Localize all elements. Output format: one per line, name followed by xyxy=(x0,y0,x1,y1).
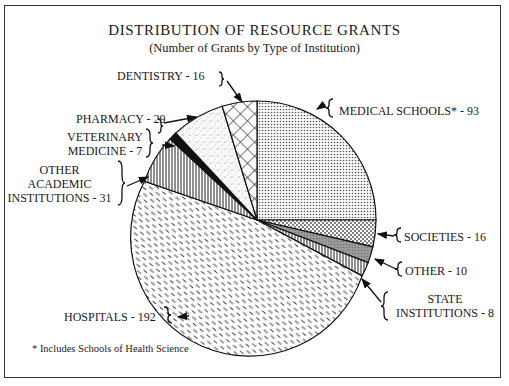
footnote: * Includes Schools of Health Science xyxy=(32,343,189,354)
label-other-academic-line3: INSTITUTIONS - 31 xyxy=(3,191,116,205)
label-other-academic-line2: ACADEMIC xyxy=(3,177,116,191)
label-other: OTHER - 10 xyxy=(405,264,467,278)
label-veterinary-medicine: VETERINARY MEDICINE - 7 xyxy=(64,130,146,158)
label-state-line1: STATE xyxy=(390,292,500,306)
label-vet-line1: VETERINARY xyxy=(64,130,146,144)
label-other-academic-line1: OTHER xyxy=(3,163,116,177)
label-state-line2: INSTITUTIONS - 8 xyxy=(390,306,500,320)
label-other-academic: OTHER ACADEMIC INSTITUTIONS - 31 xyxy=(3,163,116,205)
label-vet-line2: MEDICINE - 7 xyxy=(64,144,146,158)
label-dentistry: DENTISTRY - 16 xyxy=(117,69,205,83)
slice-medical-schools xyxy=(257,101,376,220)
label-hospitals: HOSPITALS - 192 xyxy=(64,310,156,324)
label-state-institutions: STATE INSTITUTIONS - 8 xyxy=(390,292,500,320)
label-pharmacy: PHARMACY - 29 xyxy=(76,112,166,126)
label-medical-schools: MEDICAL SCHOOLS* - 93 xyxy=(339,104,479,118)
label-societies: SOCIETIES - 16 xyxy=(404,230,486,244)
